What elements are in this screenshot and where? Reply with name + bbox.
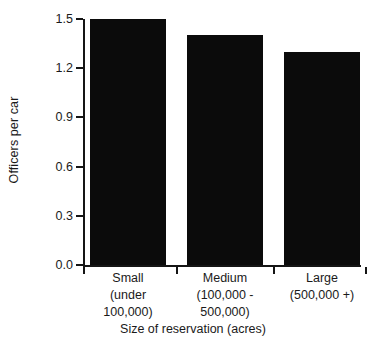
y-tick-mark [76, 18, 83, 20]
y-tick-label: 0.6 [56, 160, 73, 173]
bar-medium [187, 35, 263, 265]
x-axis-title-text: Size of reservation (acres) [120, 322, 266, 336]
y-tick-label: 0.3 [56, 210, 73, 223]
bar-chart-figure: Officers per car 0.00.30.60.91.21.5 Smal… [0, 0, 386, 345]
category-label-large: Large(500,000 +) [262, 270, 382, 304]
y-axis-title: Officers per car [0, 0, 28, 280]
y-tick-label: 1.2 [56, 62, 73, 75]
y-axis-title-text: Officers per car [7, 97, 21, 184]
x-axis-title: Size of reservation (acres) [0, 322, 386, 336]
x-axis-category-labels: Small(under100,000)Medium(100,000 -500,0… [83, 270, 361, 322]
category-label-line-3: 500,000) [165, 304, 285, 321]
y-tick-label: 0.9 [56, 111, 73, 124]
y-tick-mark [76, 264, 83, 266]
plot-area: 0.00.30.60.91.21.5 [83, 19, 361, 265]
y-tick-mark [76, 166, 83, 168]
y-tick-mark [76, 215, 83, 217]
category-label-line-1: Large [262, 270, 382, 287]
x-axis-spine [83, 265, 361, 267]
category-label-line-2: (500,000 +) [262, 287, 382, 304]
bar-small [90, 19, 166, 265]
y-tick-mark [76, 116, 83, 118]
y-tick-mark [76, 67, 83, 69]
bar-large [284, 52, 360, 265]
y-tick-label: 1.5 [56, 13, 73, 26]
y-axis-spine [83, 19, 85, 265]
